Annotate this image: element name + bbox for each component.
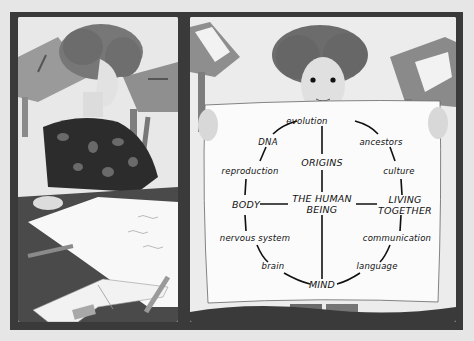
node-communication: communication [363, 233, 431, 243]
node-evolution: evolution [286, 116, 327, 126]
node-the-human-being: THE HUMAN BEING [292, 193, 352, 215]
node-ancestors: ancestors [359, 137, 402, 147]
node-culture: culture [383, 166, 414, 176]
woman-writing-scene [18, 17, 178, 322]
node-nervous-system: nervous system [220, 233, 290, 243]
node-living-together: LIVING TOGETHER [378, 194, 432, 216]
node-reproduction: reproduction [222, 166, 279, 176]
node-dna: DNA [258, 137, 277, 147]
left-panel-illustration [18, 17, 178, 322]
node-origins: ORIGINS [301, 157, 343, 168]
node-language: language [356, 261, 397, 271]
node-the-human-being-line1: THE HUMAN [292, 193, 352, 204]
node-living-together-line1: LIVING [378, 194, 432, 205]
node-body: BODY [232, 199, 260, 210]
node-mind: MIND [309, 279, 335, 290]
node-living-together-line2: TOGETHER [378, 205, 432, 216]
node-the-human-being-line2: BEING [292, 204, 352, 215]
node-brain: brain [262, 261, 285, 271]
right-panel-illustration: evolution DNA ancestors reproduction cul… [190, 17, 456, 322]
